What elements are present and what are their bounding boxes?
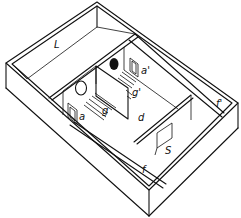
label-a: a <box>79 111 85 122</box>
label-g: g <box>102 105 108 116</box>
outer-box <box>6 2 238 216</box>
label-f-prime: f' <box>216 98 222 109</box>
label-d: d <box>138 112 145 123</box>
open-circle-marker <box>76 81 87 95</box>
label-L: L <box>54 39 60 50</box>
filled-circle-marker <box>110 58 119 70</box>
label-f: f <box>142 164 147 175</box>
label-S: S <box>165 145 172 156</box>
label-g-prime: g' <box>132 87 141 98</box>
door-a-prime <box>130 58 138 77</box>
compartment-L <box>12 27 138 100</box>
label-a-prime: a' <box>141 65 150 76</box>
apparatus-diagram: L a a' g g' d S f f' <box>0 0 241 218</box>
